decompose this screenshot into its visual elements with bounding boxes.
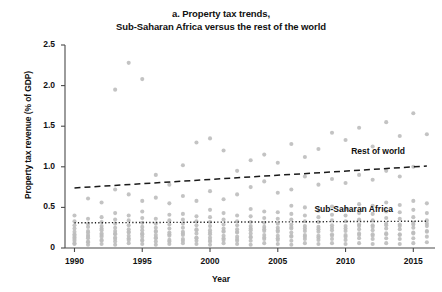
- scatter-point: [262, 153, 266, 157]
- scatter-point: [100, 239, 104, 243]
- scatter-point: [398, 233, 402, 237]
- scatter-point: [167, 239, 171, 243]
- scatter-point: [425, 240, 429, 244]
- scatter-point: [86, 196, 90, 200]
- scatter-point: [222, 197, 226, 201]
- scatter-point: [344, 242, 348, 246]
- property-tax-trends-chart: a. Property tax trends, Sub-Saharan Afri…: [0, 0, 442, 292]
- scatter-point: [316, 235, 320, 239]
- x-tick-label: 2015: [393, 256, 433, 266]
- scatter-point: [194, 236, 198, 240]
- scatter-point: [425, 235, 429, 239]
- x-tick-label: 1990: [54, 256, 94, 266]
- scatter-point: [289, 243, 293, 247]
- scatter-point: [235, 192, 239, 196]
- scatter-point: [330, 241, 334, 245]
- scatter-point: [303, 155, 307, 159]
- y-tick-label: 1.0: [25, 161, 55, 171]
- scatter-point: [249, 214, 253, 218]
- scatter-point: [167, 226, 171, 230]
- scatter-point: [384, 241, 388, 245]
- scatter-point: [154, 173, 158, 177]
- scatter-point: [398, 134, 402, 138]
- scatter-point: [181, 212, 185, 216]
- scatter-point: [249, 243, 253, 247]
- scatter-point: [276, 217, 280, 221]
- scatter-point: [411, 222, 415, 226]
- scatter-point: [276, 191, 280, 195]
- scatter-point: [72, 241, 76, 245]
- rest-of-world-trend-line: [74, 166, 426, 188]
- scatter-point: [208, 215, 212, 219]
- scatter-point: [154, 229, 158, 233]
- scatter-point: [208, 224, 212, 228]
- scatter-point: [181, 163, 185, 167]
- scatter-point: [289, 187, 293, 191]
- scatter-point: [140, 216, 144, 220]
- scatter-point: [249, 235, 253, 239]
- scatter-point: [330, 131, 334, 135]
- scatter-point: [235, 169, 239, 173]
- y-tick-label: 2.0: [25, 80, 55, 90]
- scatter-point: [208, 189, 212, 193]
- scatter-point: [344, 181, 348, 185]
- scatter-point: [344, 235, 348, 239]
- scatter-point: [222, 236, 226, 240]
- scatter-point: [235, 237, 239, 241]
- scatter-point: [208, 208, 212, 212]
- scatter-point: [289, 234, 293, 238]
- scatter-point: [113, 222, 117, 226]
- scatter-point: [235, 213, 239, 217]
- scatter-point: [411, 241, 415, 245]
- scatter-point: [289, 225, 293, 229]
- scatter-point: [303, 226, 307, 230]
- scatter-point: [113, 187, 117, 191]
- scatter-point: [411, 111, 415, 115]
- scatter-point: [100, 215, 104, 219]
- scatter-point: [276, 236, 280, 240]
- scatter-point: [167, 213, 171, 217]
- scatter-point: [357, 126, 361, 130]
- scatter-point: [127, 192, 131, 196]
- scatter-point: [262, 235, 266, 239]
- scatter-point: [222, 222, 226, 226]
- scatter-point: [113, 88, 117, 92]
- scatter-point: [384, 232, 388, 236]
- scatter-point: [398, 174, 402, 178]
- scatter-point: [289, 212, 293, 216]
- x-tick-label: 1995: [122, 256, 162, 266]
- scatter-point: [276, 210, 280, 214]
- scatter-point: [425, 230, 429, 234]
- scatter-point: [384, 169, 388, 173]
- scatter-point: [208, 231, 212, 235]
- scatter-point: [398, 210, 402, 214]
- x-tick-label: 2000: [190, 256, 230, 266]
- scatter-point: [425, 132, 429, 136]
- scatter-point: [86, 217, 90, 221]
- scatter-point: [113, 226, 117, 230]
- scatter-point: [330, 226, 334, 230]
- scatter-point: [262, 241, 266, 245]
- scatter-point: [100, 220, 104, 224]
- scatter-point: [86, 240, 90, 244]
- scatter-point: [398, 237, 402, 241]
- scatter-point: [100, 200, 104, 204]
- scatter-point: [411, 199, 415, 203]
- scatter-point: [167, 183, 171, 187]
- scatter-point: [276, 242, 280, 246]
- y-tick-label: 1.5: [25, 120, 55, 130]
- scatter-point: [316, 183, 320, 187]
- scatter-point: [316, 227, 320, 231]
- scatter-point: [425, 222, 429, 226]
- scatter-point: [127, 230, 131, 234]
- scatter-point: [181, 194, 185, 198]
- scatter-point: [167, 232, 171, 236]
- x-tick-label: 2005: [258, 256, 298, 266]
- scatter-point: [344, 138, 348, 142]
- scatter-point: [411, 236, 415, 240]
- scatter-point: [425, 211, 429, 215]
- scatter-point: [289, 218, 293, 222]
- scatter-point: [303, 174, 307, 178]
- scatter-point: [194, 214, 198, 218]
- scatter-point: [194, 223, 198, 227]
